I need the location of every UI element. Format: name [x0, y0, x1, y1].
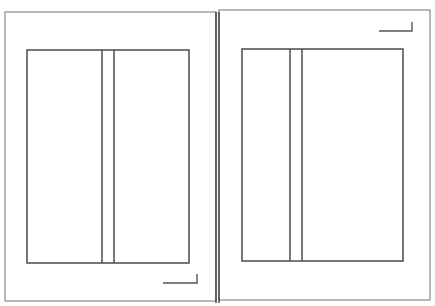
- page-border: [219, 10, 430, 300]
- text-block-frame: [242, 49, 403, 261]
- right-page: [219, 10, 430, 300]
- book-spread-drawing: [0, 0, 435, 306]
- page-border: [5, 12, 216, 301]
- left-page: [5, 12, 216, 301]
- text-block-frame: [27, 50, 189, 263]
- book-spread-diagram: [0, 0, 435, 306]
- folio-corner-mark: [163, 274, 197, 283]
- folio-corner-mark: [379, 22, 412, 31]
